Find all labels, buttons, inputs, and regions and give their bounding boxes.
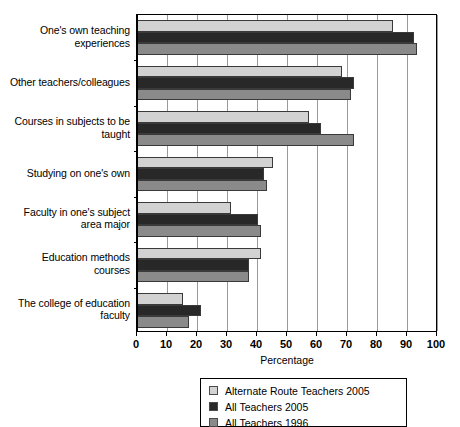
x-tick — [316, 332, 317, 336]
bar — [138, 202, 231, 214]
x-tick — [286, 332, 287, 336]
x-tick — [226, 332, 227, 336]
x-axis-tick-labels: 0102030405060708090100 — [0, 337, 460, 353]
category-label-line: Education methods — [0, 251, 130, 264]
category-label-line: Studying on one's own — [0, 167, 130, 180]
x-axis-title: Percentage — [136, 353, 438, 367]
category-label-line: Faculty in one's subject — [0, 206, 130, 219]
x-tick — [256, 332, 257, 336]
x-tick — [196, 332, 197, 336]
category-axis-labels: One's own teachingexperiencesOther teach… — [0, 14, 130, 332]
category-tick — [134, 197, 138, 198]
category-label-line: experiences — [0, 37, 130, 50]
x-tick — [346, 332, 347, 336]
category-tick — [134, 242, 138, 243]
bar — [138, 43, 417, 55]
category-label: Other teachers/colleagues — [0, 76, 130, 89]
bar — [138, 259, 249, 271]
category-tick — [134, 151, 138, 152]
bar-chart: One's own teachingexperiencesOther teach… — [0, 0, 460, 427]
category-label-line: Courses in subjects to be — [0, 115, 130, 128]
bar — [138, 89, 351, 101]
category-label-line: Other teachers/colleagues — [0, 76, 130, 89]
legend-label: Alternate Route Teachers 2005 — [225, 385, 370, 397]
gridline — [317, 15, 318, 331]
category-label: Courses in subjects to betaught — [0, 115, 130, 140]
category-label: Education methodscourses — [0, 251, 130, 276]
gridline — [437, 15, 438, 331]
legend-item: All Teachers 2005 — [209, 399, 406, 414]
bar — [138, 271, 249, 283]
x-tick — [436, 332, 437, 336]
category-label: The college of educationfaculty — [0, 297, 130, 322]
gridline — [347, 15, 348, 331]
bar — [138, 180, 267, 192]
bar — [138, 123, 321, 135]
chart-legend: Alternate Route Teachers 2005All Teacher… — [200, 378, 407, 427]
legend-swatch-icon — [209, 386, 218, 395]
bar — [138, 134, 354, 146]
legend-item: Alternate Route Teachers 2005 — [209, 383, 406, 398]
gridline — [407, 15, 408, 331]
legend-item: All Teachers 1996 — [209, 415, 406, 427]
bar — [138, 77, 354, 89]
bar — [138, 305, 201, 317]
category-label-line: The college of education — [0, 297, 130, 310]
legend-swatch-icon — [209, 402, 218, 411]
legend-label: All Teachers 2005 — [225, 401, 308, 413]
legend-label: All Teachers 1996 — [225, 417, 308, 427]
category-tick — [134, 60, 138, 61]
x-tick-label: 100 — [416, 337, 456, 351]
bar — [138, 316, 189, 328]
category-label: Studying on one's own — [0, 167, 130, 180]
category-label-line: area major — [0, 218, 130, 231]
x-tick — [406, 332, 407, 336]
bar — [138, 248, 261, 260]
plot-area — [136, 14, 437, 332]
legend-swatch-icon — [209, 418, 218, 427]
category-label-line: One's own teaching — [0, 24, 130, 37]
bar — [138, 66, 342, 78]
x-tick — [166, 332, 167, 336]
bar — [138, 214, 258, 226]
category-label: Faculty in one's subjectarea major — [0, 206, 130, 231]
gridline — [287, 15, 288, 331]
bar — [138, 168, 264, 180]
category-label-line: faculty — [0, 309, 130, 322]
category-label-line: taught — [0, 128, 130, 141]
x-tick — [376, 332, 377, 336]
category-tick — [134, 288, 138, 289]
category-label-line: courses — [0, 264, 130, 277]
bar — [138, 111, 309, 123]
x-tick — [136, 332, 137, 336]
bar — [138, 20, 393, 32]
category-tick — [134, 106, 138, 107]
gridline — [377, 15, 378, 331]
category-label: One's own teachingexperiences — [0, 24, 130, 49]
bar — [138, 157, 273, 169]
bar — [138, 32, 414, 44]
bar — [138, 293, 183, 305]
bar — [138, 225, 261, 237]
